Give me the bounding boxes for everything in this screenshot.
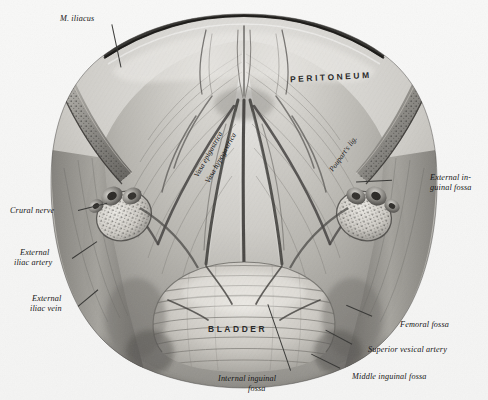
label-external-iliac-artery-line2: iliac artery [14,258,52,268]
label-femoral-fossa: Femoral fossa [400,320,449,330]
label-internal-inguinal-fossa-line2: fossa [248,384,266,394]
label-external-iliac-vein-line1: External [32,294,61,304]
label-superior-vesical-artery: Superior vesical artery [368,345,447,355]
label-external-inguinal-fossa-line2: guinal fossa [430,183,472,193]
label-external-inguinal-fossa-line1: External in- [430,173,471,183]
label-middle-inguinal-fossa: Middle inguinal fossa [352,372,427,382]
anatomy-illustration [0,0,488,400]
label-external-iliac-vein-line2: iliac vein [30,304,62,314]
label-internal-inguinal-fossa-line1: Internal inguinal [218,374,276,384]
label-crural-nerve: Crural nerve [10,206,54,216]
label-m-iliacus: M. iliacus [60,14,94,24]
label-external-iliac-artery-line1: External [20,248,49,258]
anatomical-plate: M. iliacus PERITONEUM Poupart's lig. Vas… [0,0,488,400]
label-bladder: BLADDER [208,325,267,335]
